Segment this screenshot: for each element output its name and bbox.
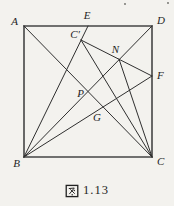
figure-page: { "figure": { "colors": { "line": "#2f2f… — [0, 0, 174, 206]
scan-speck — [124, 3, 126, 5]
point-label-F: F — [156, 69, 164, 81]
point-label-D: D — [156, 14, 165, 26]
tu-char-icon — [65, 184, 79, 198]
point-label-G: G — [93, 111, 101, 123]
point-label-N: N — [111, 43, 120, 55]
point-label-C-prime: C′ — [70, 28, 80, 40]
figure-caption: 1.13 — [0, 183, 174, 198]
segment-B-F — [24, 76, 152, 157]
point-label-P: P — [76, 87, 84, 99]
point-label-C: C — [157, 155, 165, 167]
geometry-figure: ADBCEC′NFPG — [0, 0, 174, 178]
point-label-B: B — [13, 157, 20, 169]
figure-caption-number: 1.13 — [83, 183, 109, 198]
point-label-E: E — [83, 9, 91, 21]
scan-speck — [167, 2, 169, 4]
point-label-A: A — [10, 15, 18, 27]
